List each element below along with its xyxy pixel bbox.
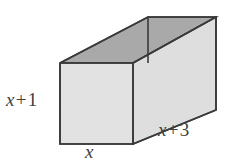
label-depth-var: x bbox=[158, 119, 167, 140]
label-depth-num: 3 bbox=[180, 119, 190, 140]
label-height-op: + bbox=[15, 89, 28, 110]
label-width-var: x bbox=[85, 141, 94, 162]
prism-drawing bbox=[0, 0, 232, 165]
rectangular-prism-figure: x+1 x x+3 bbox=[0, 0, 232, 165]
label-depth-op: + bbox=[167, 119, 180, 140]
label-height: x+1 bbox=[6, 90, 38, 109]
label-height-var: x bbox=[6, 89, 15, 110]
label-width: x bbox=[85, 142, 94, 161]
label-depth: x+3 bbox=[158, 120, 190, 139]
label-height-num: 1 bbox=[28, 89, 38, 110]
prism-front-face bbox=[60, 63, 133, 144]
